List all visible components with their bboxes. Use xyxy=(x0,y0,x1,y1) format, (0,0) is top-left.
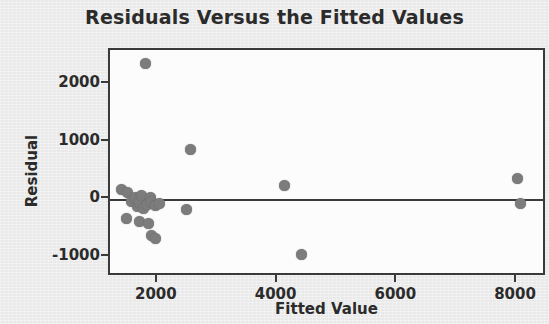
x-axis-tick-mark xyxy=(514,275,516,282)
scatter-point xyxy=(185,144,196,155)
scatter-point xyxy=(150,233,161,244)
scatter-point xyxy=(279,180,290,191)
y-axis-tick-labels: 200010000-1000 xyxy=(40,0,100,324)
scatter-point xyxy=(181,204,192,215)
y-axis-tick-label: 2000 xyxy=(58,73,100,91)
x-axis-title: Fitted Value xyxy=(108,300,545,318)
scatter-point xyxy=(140,58,151,69)
plot-area xyxy=(108,48,545,275)
zero-reference-line xyxy=(110,199,543,201)
y-axis-tick-mark xyxy=(101,254,108,256)
scatter-point xyxy=(154,198,165,209)
x-axis-tick-mark xyxy=(394,275,396,282)
y-axis-tick-mark xyxy=(101,81,108,83)
scatter-point xyxy=(512,173,523,184)
y-axis-tick-label: -1000 xyxy=(52,246,100,264)
scatter-point xyxy=(296,249,307,260)
scatter-point xyxy=(121,213,132,224)
y-axis-tick-mark xyxy=(101,196,108,198)
x-axis-tick-mark xyxy=(275,275,277,282)
y-axis-tick-label: 0 xyxy=(90,188,100,206)
scatter-point xyxy=(143,218,154,229)
scatter-point xyxy=(515,198,526,209)
y-axis-tick-mark xyxy=(101,139,108,141)
x-axis-tick-mark xyxy=(155,275,157,282)
chart-figure: Residuals Versus the Fitted Values Resid… xyxy=(0,0,549,324)
y-axis-title: Residual xyxy=(23,121,41,221)
y-axis-tick-label: 1000 xyxy=(58,131,100,149)
